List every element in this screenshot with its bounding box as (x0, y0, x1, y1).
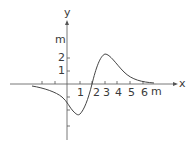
waveform-diagram (0, 0, 188, 148)
y-ticks (67, 58, 70, 126)
x-axis-arrow-icon (173, 82, 178, 86)
x-axis-label: x (179, 78, 186, 89)
x-tick-label-5: 5 (128, 87, 135, 98)
x-tick-label-3: 3 (103, 87, 110, 98)
y-axis-arrow-icon (65, 20, 69, 25)
y-tick-label-2: 2 (58, 52, 65, 63)
x-tick-label-2: 2 (93, 87, 100, 98)
x-tick-label-6: 6 (141, 87, 148, 98)
x-unit-label: m (151, 86, 162, 97)
y-axis-label: y (64, 7, 71, 18)
y-tick-label-1: 1 (58, 65, 65, 76)
y-unit-label: m (55, 34, 66, 45)
x-tick-label-1: 1 (77, 87, 84, 98)
x-tick-label-4: 4 (115, 87, 122, 98)
curve-line (32, 54, 154, 115)
